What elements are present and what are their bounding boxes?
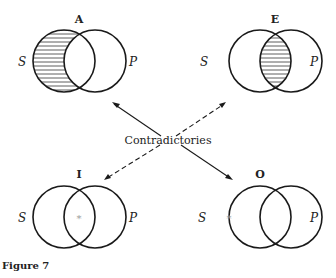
o-label-p: P [309,211,319,225]
a-label-p: P [128,55,138,69]
i-label-s: S [18,211,26,225]
diagram-i: I S P * [18,168,138,248]
i-label-p: P [128,211,138,225]
arrowhead-i-icon [104,174,111,180]
o-title: O [255,168,265,181]
figure-caption: Figure 7 [2,260,49,271]
diagram-o: O S P * [198,168,322,248]
e-title: E [271,13,279,26]
venn-square-of-opposition: A S P E S P I S P * O S P * [0,0,336,278]
e-label-s: S [200,55,208,69]
diagram-e: E S P [200,13,322,92]
diagram-a: A S P [18,13,138,92]
o-label-s: S [198,211,206,225]
i-existence-mark: * [77,213,82,224]
i-title: I [76,168,81,181]
arrow-o-solid [181,145,230,178]
arrow-e-dashed [176,104,224,136]
a-label-s: S [18,55,26,69]
e-label-p: P [309,55,319,69]
a-title: A [74,13,84,26]
arrow-i-dashed [107,145,160,178]
o-existence-mark: * [227,213,232,224]
contradictories-label: Contradictories [124,134,211,147]
arrow-a-solid [114,104,161,136]
